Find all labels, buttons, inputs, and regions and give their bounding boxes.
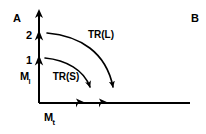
axis-group xyxy=(35,9,190,107)
y-tick-label-2: 2 xyxy=(26,29,32,41)
trajectory-label-tr-l: TR(L) xyxy=(88,29,114,40)
x-axis-arrowhead-icon-1 xyxy=(76,99,86,108)
x-axis-label: M t xyxy=(44,111,56,127)
figure-container: A B 2 1 M l M t TR(L) TR(S) xyxy=(0,0,206,134)
y-tick-label-1: 1 xyxy=(26,54,32,66)
y-axis-label-subscript: l xyxy=(29,77,31,86)
y-axis-label: M l xyxy=(20,70,31,86)
trajectory-label-tr-s: TR(S) xyxy=(53,71,80,82)
panel-label-b: B xyxy=(191,12,199,24)
x-axis-arrowhead-icon-2 xyxy=(99,99,109,108)
panel-label-a: A xyxy=(13,12,21,24)
x-axis-label-subscript: t xyxy=(53,118,56,127)
schematic-diagram-svg: A B 2 1 M l M t TR(L) TR(S) xyxy=(0,0,206,134)
